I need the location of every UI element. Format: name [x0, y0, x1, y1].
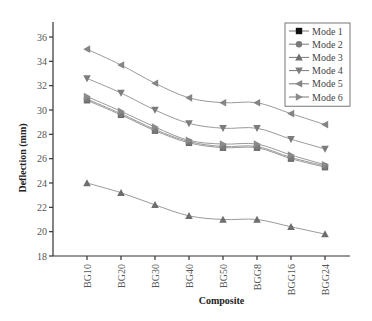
- series-mode-2: [84, 96, 328, 169]
- y-tick-label: 28: [37, 129, 47, 140]
- data-point: [117, 189, 125, 196]
- legend-label: Mode 5: [312, 78, 343, 89]
- y-tick-label: 36: [37, 32, 47, 43]
- y-tick-label: 30: [37, 105, 47, 116]
- x-tick-label: BG40: [184, 264, 195, 288]
- x-tick-label: BG20: [116, 264, 127, 288]
- data-point: [83, 45, 90, 53]
- line-chart: 18202224262830323436BG10BG20BG30BG40BG50…: [0, 0, 372, 321]
- data-point: [151, 107, 159, 114]
- y-tick-label: 18: [37, 251, 47, 262]
- legend-marker-icon: [296, 41, 302, 47]
- data-point: [185, 94, 192, 102]
- x-tick-label: BGG16: [286, 264, 297, 295]
- legend-label: Mode 6: [312, 92, 343, 103]
- y-tick-label: 20: [37, 226, 47, 237]
- x-tick-label: BGG8: [252, 264, 263, 290]
- data-point: [321, 146, 329, 153]
- y-axis-title: Deflection (mm): [17, 123, 29, 192]
- legend: Mode 1Mode 2Mode 3Mode 4Mode 5Mode 6: [285, 23, 350, 106]
- legend-label: Mode 2: [312, 39, 343, 50]
- legend-label: Mode 4: [312, 65, 343, 76]
- data-point: [321, 121, 328, 129]
- data-point: [117, 61, 124, 69]
- y-tick-label: 22: [37, 202, 47, 213]
- x-tick-label: BGG24: [320, 264, 331, 295]
- legend-label: Mode 3: [312, 52, 343, 63]
- y-tick-label: 34: [37, 56, 47, 67]
- legend-label: Mode 1: [312, 26, 343, 37]
- legend-marker-icon: [296, 28, 302, 34]
- x-tick-label: BG50: [218, 264, 229, 288]
- x-axis-title: Composite: [199, 295, 245, 306]
- x-tick-label: BG10: [82, 264, 93, 288]
- data-point: [219, 99, 226, 107]
- y-tick-label: 32: [37, 80, 47, 91]
- data-point: [83, 75, 91, 82]
- data-point: [151, 79, 158, 87]
- series-mode-3: [83, 179, 329, 237]
- data-point: [117, 90, 125, 97]
- data-point: [253, 99, 260, 107]
- data-point: [287, 110, 294, 118]
- data-point: [151, 201, 159, 208]
- x-tick-label: BG30: [150, 264, 161, 288]
- y-tick-label: 26: [37, 153, 47, 164]
- data-point: [83, 179, 91, 186]
- y-tick-label: 24: [37, 178, 47, 189]
